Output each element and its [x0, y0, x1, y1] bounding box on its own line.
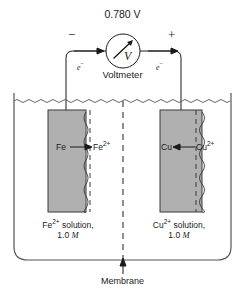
voltmeter-symbol: V — [124, 50, 131, 64]
right-concentration-unit: M — [183, 230, 190, 240]
left-solution-label: Fe2+ solution, 1.0 M — [22, 218, 114, 240]
iron-ion-species: Fe — [93, 142, 103, 152]
liquid-surface-wave — [14, 100, 230, 103]
copper-electrode-label: Cu — [161, 143, 172, 153]
left-solution-species: Fe — [42, 220, 52, 230]
copper-ion-species: Cu — [196, 142, 207, 152]
left-solution-line2: 1.0 M — [22, 231, 114, 241]
copper-electrode — [160, 110, 205, 213]
voltmeter-label: Voltmeter — [0, 70, 245, 81]
membrane-callout-head — [120, 258, 126, 266]
electrochemical-cell-diagram: 0.780 V V Voltmeter − + e− e− Fe Fe2+ Cu… — [0, 0, 245, 296]
membrane-label: Membrane — [0, 276, 245, 286]
voltmeter-gauge — [106, 34, 140, 68]
liquid-surface — [14, 100, 230, 103]
right-solution-word: solution, — [171, 220, 205, 230]
right-solution-charge: 2+ — [164, 218, 171, 225]
right-solution-label: Cu2+ solution, 1.0 M — [132, 218, 226, 240]
negative-terminal-sign: − — [68, 28, 75, 43]
iron-ion-label: Fe2+ — [93, 140, 110, 153]
electron-label-right-charge: − — [160, 60, 164, 67]
copper-electrode-body — [160, 110, 202, 212]
left-concentration-unit: M — [72, 230, 79, 240]
electron-arrow-right-head — [171, 48, 178, 54]
copper-ion-charge: 2+ — [207, 140, 214, 147]
iron-electrode-label: Fe — [56, 143, 66, 153]
electron-label-left: e− — [77, 60, 84, 72]
right-solution-line2: 1.0 M — [132, 231, 226, 241]
electron-label-left-charge: − — [81, 60, 85, 67]
voltage-reading: 0.780 V — [0, 8, 245, 20]
iron-electrode-body — [48, 110, 86, 212]
positive-terminal-sign: + — [168, 28, 175, 43]
iron-electrode — [48, 110, 90, 213]
iron-ion-charge: 2+ — [103, 140, 110, 147]
voltmeter-circle — [106, 34, 140, 68]
copper-ion-label: Cu2+ — [196, 140, 214, 153]
left-solution-word: solution, — [60, 220, 94, 230]
right-solution-species: Cu — [153, 220, 164, 230]
left-concentration-value: 1.0 — [57, 230, 69, 240]
electron-label-right: e− — [156, 60, 163, 72]
right-concentration-value: 1.0 — [168, 230, 180, 240]
electron-arrow-left-head — [97, 48, 104, 54]
left-solution-charge: 2+ — [52, 218, 59, 225]
oxidation-arrow-head — [85, 144, 92, 150]
